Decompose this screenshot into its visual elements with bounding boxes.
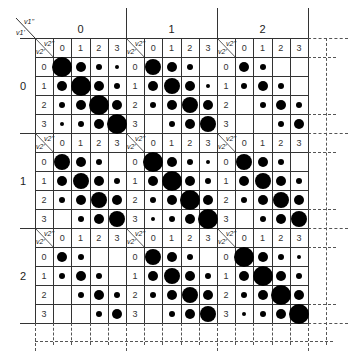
probability-dot	[112, 309, 122, 319]
probability-dot	[114, 292, 120, 298]
probability-dot	[148, 176, 158, 186]
inner-row-index: 2	[126, 196, 144, 205]
inner-corner-label-bottom: v2'	[218, 238, 227, 245]
inner-row-index: 0	[35, 253, 53, 262]
inner-row-index: 1	[126, 272, 144, 281]
probability-dot	[278, 254, 284, 260]
inner-column-index: 0	[144, 44, 162, 53]
inner-row-index: 0	[35, 63, 53, 72]
probability-dot	[167, 62, 177, 72]
probability-dot	[112, 195, 122, 205]
probability-dot	[145, 59, 161, 75]
inner-column-index: 3	[199, 139, 217, 148]
probability-dot	[169, 311, 175, 317]
probability-dot	[57, 81, 67, 91]
probability-dot	[78, 254, 84, 260]
inner-row-index: 0	[217, 158, 235, 167]
probability-dot	[57, 176, 67, 186]
probability-dot	[239, 271, 249, 281]
outer-row-label: 2	[16, 271, 30, 282]
inner-row-index: 0	[217, 63, 235, 72]
inner-column-index: 2	[181, 234, 199, 243]
inner-row-index: 1	[126, 177, 144, 186]
probability-dot	[203, 290, 213, 300]
inner-corner-label-bottom: v2'	[218, 143, 227, 150]
probability-dot	[296, 102, 302, 108]
outer-row-label: 0	[16, 81, 30, 92]
probability-dot	[205, 273, 211, 279]
inner-corner-label-bottom: v2'	[218, 48, 227, 55]
probability-dot	[180, 190, 200, 210]
probability-dot	[114, 83, 120, 89]
probability-dot	[94, 214, 104, 224]
probability-dot	[164, 78, 180, 94]
probability-dot	[258, 81, 268, 91]
inner-row-index: 0	[35, 158, 53, 167]
dashed-extension-horizontal	[308, 114, 336, 115]
inner-column-index: 3	[290, 234, 308, 243]
probability-dot	[203, 100, 213, 110]
inner-column-index: 3	[199, 234, 217, 243]
probability-dot	[297, 255, 301, 259]
probability-dot	[258, 157, 268, 167]
inner-row-index: 3	[35, 310, 53, 319]
inner-column-index: 3	[108, 139, 126, 148]
probability-dot	[185, 271, 195, 281]
probability-dot	[185, 214, 195, 224]
outer-column-label: 0	[35, 24, 126, 35]
inner-column-index: 0	[235, 44, 253, 53]
probability-dot	[239, 62, 249, 72]
probability-dot	[96, 311, 102, 317]
probability-dot	[114, 178, 120, 184]
probability-dot	[96, 64, 102, 70]
probability-dot	[294, 195, 304, 205]
probability-dot	[76, 62, 86, 72]
inner-column-index: 3	[290, 139, 308, 148]
dashed-extension-horizontal	[308, 38, 348, 39]
probability-dot	[236, 154, 252, 170]
inner-column-index: 2	[272, 44, 290, 53]
inner-row-index: 0	[126, 253, 144, 262]
probability-dot	[200, 116, 216, 132]
inner-column-index: 0	[235, 139, 253, 148]
probability-dot	[76, 100, 86, 110]
probability-dot	[200, 306, 216, 322]
probability-dot	[78, 216, 84, 222]
inner-column-index: 1	[71, 234, 89, 243]
dashed-extension-vertical	[35, 323, 36, 351]
probability-dot	[167, 195, 177, 205]
dashed-extension-horizontal	[35, 341, 333, 342]
probability-dot	[276, 271, 286, 281]
inner-column-index: 1	[162, 44, 180, 53]
inner-row-index: 3	[217, 310, 235, 319]
probability-dot	[115, 65, 119, 69]
probability-dot	[148, 271, 158, 281]
inner-column-index: 2	[90, 234, 108, 243]
probability-dot	[203, 195, 213, 205]
inner-row-index: 1	[35, 272, 53, 281]
probability-dot	[52, 57, 72, 77]
inner-row-index: 1	[35, 82, 53, 91]
inner-row-index: 1	[217, 82, 235, 91]
probability-dot	[258, 252, 268, 262]
probability-dot	[242, 312, 246, 316]
probability-dot	[150, 292, 156, 298]
probability-dot	[91, 192, 107, 208]
inner-column-index: 3	[290, 44, 308, 53]
inner-row-index: 0	[217, 253, 235, 262]
probability-dot	[59, 273, 65, 279]
probability-dot	[78, 121, 84, 127]
dashed-extension-horizontal	[308, 152, 336, 153]
probability-dot	[187, 254, 193, 260]
inner-column-index: 1	[253, 44, 271, 53]
dashed-extension-horizontal	[308, 247, 336, 248]
inner-row-index: 0	[126, 63, 144, 72]
probability-dot	[167, 290, 177, 300]
outer-corner-label-bottom: v1'	[16, 29, 25, 36]
probability-dot	[258, 195, 268, 205]
inner-row-index: 1	[217, 177, 235, 186]
inner-row-index: 2	[217, 291, 235, 300]
probability-dot	[60, 122, 64, 126]
inner-column-index: 2	[90, 44, 108, 53]
probability-dot	[78, 292, 84, 298]
